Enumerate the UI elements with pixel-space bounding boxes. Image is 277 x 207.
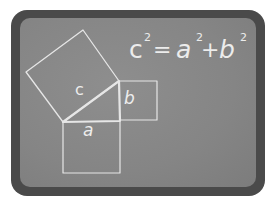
- eq-b-exp: 2: [240, 31, 247, 44]
- label-b: b: [124, 88, 135, 108]
- eq-equals: =: [153, 37, 171, 62]
- eq-plus: +: [201, 37, 219, 62]
- eq-c: c: [129, 35, 143, 64]
- right-triangle: [63, 81, 120, 122]
- pythagorean-diagram: [0, 0, 277, 207]
- eq-a: a: [176, 35, 191, 64]
- label-a: a: [83, 120, 93, 140]
- eq-c-exp: 2: [144, 31, 151, 44]
- square-c: [26, 30, 119, 122]
- label-c: c: [75, 80, 84, 99]
- eq-b: b: [219, 35, 235, 64]
